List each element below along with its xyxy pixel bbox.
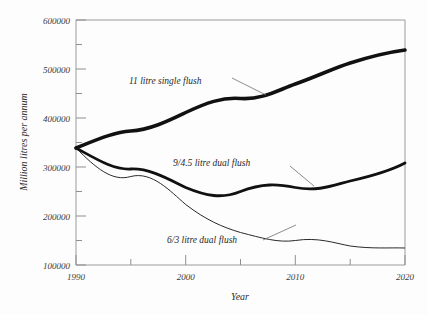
series-label-6-3-litre-dual-flush: 6/3 litre dual flush	[167, 235, 237, 245]
x-tick-label-2020: 2020	[396, 272, 415, 282]
line-chart: 600000 500000 400000 300000 200000 10000…	[0, 0, 427, 315]
x-axis-title: Year	[231, 291, 249, 302]
y-tick-label-300000: 300000	[42, 163, 71, 173]
x-tick-label-2010: 2010	[286, 272, 305, 282]
y-axis-title: Million litres per annum	[18, 93, 29, 192]
y-tick-label-100000: 100000	[43, 261, 71, 271]
y-tick-label-500000: 500000	[43, 65, 71, 75]
y-tick-label-400000: 400000	[43, 114, 71, 124]
series-label-9-4-5-litre-dual-flush: 9/4.5 litre dual flush	[173, 158, 250, 168]
x-tick-label-1990: 1990	[67, 272, 86, 282]
y-tick-label-600000: 600000	[43, 16, 71, 26]
series-label-11-litre-single-flush: 11 litre single flush	[129, 76, 202, 86]
y-tick-label-200000: 200000	[43, 212, 71, 222]
x-tick-label-2000: 2000	[177, 272, 196, 282]
chart-container: 600000 500000 400000 300000 200000 10000…	[0, 0, 427, 315]
